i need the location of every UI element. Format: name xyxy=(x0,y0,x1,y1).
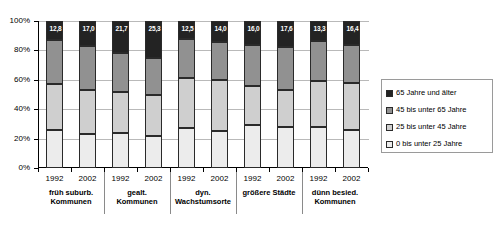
bar-segment xyxy=(343,130,360,168)
bar-value-label: 17,6 xyxy=(278,25,295,32)
group-label-line: Kommunen xyxy=(38,197,104,206)
x-axis-tick-mark xyxy=(203,168,204,172)
x-axis-year-label: 1992 xyxy=(104,174,138,183)
bar-segment xyxy=(310,41,327,82)
bar-segment xyxy=(178,128,195,168)
bar-segment xyxy=(343,83,360,130)
legend-item-label: 25 bis unter 45 Jahre xyxy=(396,123,466,131)
bar-segment xyxy=(79,46,96,90)
bar-grerestdte-1992: 16,0 xyxy=(244,21,261,168)
bar-value-label: 21,7 xyxy=(113,25,130,32)
bar-value-label: 12,5 xyxy=(179,25,196,32)
bar-segment xyxy=(211,80,228,131)
bar-gealt-1992: 21,7 xyxy=(112,21,129,168)
x-axis-year-label: 1992 xyxy=(302,174,336,183)
x-axis-year-label: 2002 xyxy=(335,174,369,183)
bar-segment xyxy=(343,45,360,83)
y-axis-tick-label: 40% xyxy=(14,105,30,113)
x-axis-tick-mark xyxy=(269,168,270,172)
x-axis-year-label: 2002 xyxy=(203,174,237,183)
legend-swatch-icon xyxy=(386,90,393,97)
bar-frhsuburb-2002: 17,0 xyxy=(79,21,96,168)
bar-segment xyxy=(145,58,162,94)
bars-layer: 12,817,021,725,312,514,016,017,613,316,4 xyxy=(38,21,368,168)
legend-item[interactable]: 25 bis unter 45 Jahre xyxy=(386,119,489,135)
bar-segment: 16,4 xyxy=(343,21,360,45)
chart-legend: 65 Jahre und älter45 bis unter 65 Jahre2… xyxy=(381,79,493,153)
bar-segment xyxy=(145,136,162,168)
x-axis-tick-mark xyxy=(137,168,138,172)
bar-segment xyxy=(244,86,261,126)
group-label-line: Wachstumsorte xyxy=(170,197,236,206)
bar-segment xyxy=(277,127,294,168)
bar-segment: 16,0 xyxy=(244,21,261,45)
legend-item-label: 0 bis unter 25 Jahre xyxy=(396,140,462,148)
group-label-line: größere Städte xyxy=(236,188,302,197)
bar-segment xyxy=(79,90,96,134)
bar-segment xyxy=(244,125,261,168)
bar-value-label: 16,0 xyxy=(245,25,262,32)
y-axis-tick-label: 80% xyxy=(14,46,30,54)
x-axis-year-label: 1992 xyxy=(38,174,72,183)
group-label-line: dünn besied. xyxy=(302,188,368,197)
x-axis-tick-mark xyxy=(368,168,369,172)
y-axis-tick-label: 60% xyxy=(14,76,30,84)
group-label-line: gealt. xyxy=(104,188,170,197)
bar-segment xyxy=(277,47,294,90)
bar-segment xyxy=(112,92,129,133)
group-label-line: Kommunen xyxy=(104,197,170,206)
stacked-bar-chart: 0%20%40%60%80%100% 12,817,021,725,312,51… xyxy=(0,0,495,231)
bar-segment xyxy=(211,42,228,80)
x-axis-group-label: gealt.Kommunen xyxy=(104,188,170,206)
bar-segment: 14,0 xyxy=(211,21,228,42)
bar-segment: 25,3 xyxy=(145,21,162,58)
y-axis-tick-label: 20% xyxy=(14,135,30,143)
group-label-line: Kommunen xyxy=(302,197,368,206)
legend-swatch-icon xyxy=(386,141,393,148)
bar-segment: 17,6 xyxy=(277,21,294,47)
group-label-line: dyn. xyxy=(170,188,236,197)
bar-segment xyxy=(310,81,327,127)
x-axis-year-label: 1992 xyxy=(236,174,270,183)
bar-segment xyxy=(46,84,63,130)
bar-segment xyxy=(46,40,63,84)
bar-dyn-1992: 12,5 xyxy=(178,21,195,168)
bar-segment: 12,5 xyxy=(178,21,195,39)
bar-segment xyxy=(211,131,228,168)
legend-item[interactable]: 45 bis unter 65 Jahre xyxy=(386,102,489,118)
x-axis-group-label: größere Städte xyxy=(236,188,302,197)
bar-segment xyxy=(178,39,195,78)
bar-segment: 12,8 xyxy=(46,21,63,40)
bar-value-label: 16,4 xyxy=(344,25,361,32)
bar-value-label: 25,3 xyxy=(146,25,163,32)
y-axis-tick-label: 0% xyxy=(18,164,30,172)
x-axis-tick-mark xyxy=(38,168,39,172)
legend-item-label: 65 Jahre und älter xyxy=(396,89,456,97)
bar-segment xyxy=(112,133,129,168)
bar-segment xyxy=(310,127,327,168)
bar-segment: 17,0 xyxy=(79,21,96,46)
x-axis-group-label: dyn.Wachstumsorte xyxy=(170,188,236,206)
bar-grerestdte-2002: 17,6 xyxy=(277,21,294,168)
legend-swatch-icon xyxy=(386,107,393,114)
bar-frhsuburb-1992: 12,8 xyxy=(46,21,63,168)
bar-dyn-2002: 14,0 xyxy=(211,21,228,168)
bar-segment xyxy=(277,90,294,127)
bar-segment xyxy=(178,78,195,128)
bar-segment xyxy=(79,134,96,168)
bar-value-label: 14,0 xyxy=(212,25,229,32)
legend-item[interactable]: 0 bis unter 25 Jahre xyxy=(386,136,489,152)
y-axis: 0%20%40%60%80%100% xyxy=(0,21,34,168)
bar-dnnbesied-2002: 16,4 xyxy=(343,21,360,168)
bar-segment: 13,3 xyxy=(310,21,327,41)
x-axis-group-label: früh suburb.Kommunen xyxy=(38,188,104,206)
x-axis-year-label: 1992 xyxy=(170,174,204,183)
bar-segment xyxy=(46,130,63,168)
x-axis-tick-mark xyxy=(71,168,72,172)
x-axis: 19922002früh suburb.Kommunen19922002geal… xyxy=(38,168,368,214)
y-axis-tick-label: 100% xyxy=(10,17,30,25)
legend-item[interactable]: 65 Jahre und älter xyxy=(386,85,489,101)
bar-value-label: 17,0 xyxy=(80,25,97,32)
x-axis-year-label: 2002 xyxy=(71,174,105,183)
legend-item-label: 45 bis unter 65 Jahre xyxy=(396,106,466,114)
